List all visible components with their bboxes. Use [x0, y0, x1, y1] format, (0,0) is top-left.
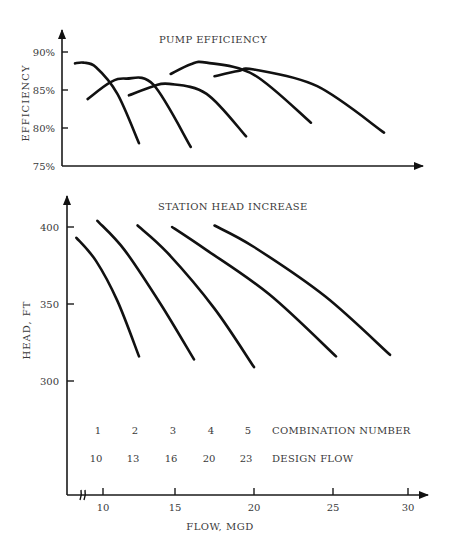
efficiency-y-tick-label: 90%: [33, 47, 55, 58]
efficiency-curve-1: [75, 62, 139, 143]
head-x-tick-label: 20: [248, 502, 261, 513]
design-flow-value: 10: [90, 453, 103, 464]
efficiency-y-tick-label: 85%: [33, 85, 55, 96]
pump-charts: PUMP EFFICIENCY EFFICIENCY 75%80%85%90% …: [0, 0, 451, 549]
head-y-tick-label: 300: [40, 376, 59, 387]
design-flow-label: DESIGN FLOW: [272, 453, 354, 464]
combination-number: 2: [132, 425, 138, 436]
efficiency-chart: PUMP EFFICIENCY EFFICIENCY 75%80%85%90%: [20, 30, 423, 172]
efficiency-curve-2: [88, 78, 191, 147]
head-x-tick-label: 15: [169, 502, 182, 513]
head-x-tick-label: 30: [402, 502, 415, 513]
combination-number-label: COMBINATION NUMBER: [272, 425, 411, 436]
head-y-axis-label: HEAD, FT: [21, 301, 32, 360]
head-y-tick-label: 350: [40, 299, 59, 310]
head-x-tick-label: 10: [97, 502, 110, 513]
design-flow-value: 16: [165, 453, 178, 464]
combination-number: 4: [208, 425, 214, 436]
efficiency-chart-title: PUMP EFFICIENCY: [159, 34, 267, 45]
design-flow-value: 20: [203, 453, 216, 464]
efficiency-y-axis-label: EFFICIENCY: [20, 64, 31, 141]
efficiency-y-tick-label: 75%: [33, 161, 55, 172]
head-curve-5: [215, 226, 391, 355]
design-flow-value: 13: [127, 453, 140, 464]
head-x-axis-label: FLOW, MGD: [186, 521, 253, 532]
combination-number: 5: [245, 425, 251, 436]
head-y-tick-label: 400: [40, 222, 59, 233]
combination-number: 1: [95, 425, 101, 436]
combination-number: 3: [170, 425, 176, 436]
combination-table: COMBINATION NUMBER DESIGN FLOW 123451013…: [90, 425, 411, 464]
head-x-tick-label: 25: [327, 502, 340, 513]
head-chart: STATION HEAD INCREASE HEAD, FT FLOW, MGD…: [21, 196, 428, 532]
efficiency-curve-5: [215, 68, 385, 132]
efficiency-y-tick-label: 80%: [33, 123, 55, 134]
head-chart-title: STATION HEAD INCREASE: [158, 201, 308, 212]
design-flow-value: 23: [240, 453, 253, 464]
efficiency-curve-3: [129, 83, 246, 136]
